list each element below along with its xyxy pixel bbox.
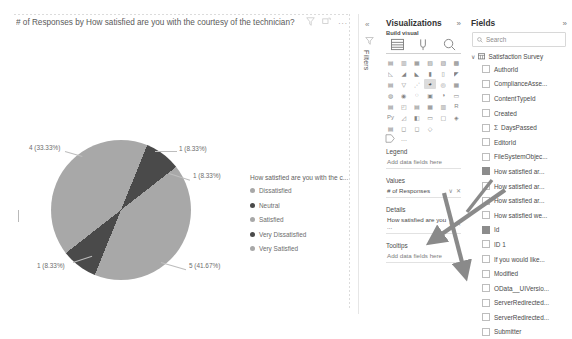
field-checkbox[interactable] bbox=[482, 167, 490, 175]
field-list-item[interactable]: Submitter bbox=[466, 325, 572, 339]
legend-item-dissatisfied[interactable]: Dissatisfied bbox=[250, 187, 362, 194]
gauge-icon[interactable]: ◑ bbox=[437, 90, 449, 100]
hundred-percent-stacked-bar-icon[interactable]: ▨ bbox=[437, 57, 449, 67]
collapse-chevron-icon[interactable]: « bbox=[365, 20, 369, 29]
field-checkbox[interactable] bbox=[482, 124, 490, 132]
funnel-chart-icon[interactable]: ▽ bbox=[398, 79, 410, 89]
field-list-item[interactable]: How satisfied ar... bbox=[466, 193, 572, 208]
fields-table-satisfaction-survey[interactable]: ∨ Satisfaction Survey bbox=[471, 53, 572, 60]
card-icon[interactable]: ▭ bbox=[450, 90, 462, 100]
well-controls[interactable]: ∨✕ bbox=[449, 187, 461, 194]
line-stacked-column-icon[interactable]: ▮ bbox=[424, 68, 436, 78]
field-checkbox[interactable] bbox=[482, 328, 490, 336]
field-list-item[interactable]: ID 1 bbox=[466, 237, 572, 252]
field-checkbox[interactable] bbox=[482, 299, 490, 307]
map-icon[interactable]: ◍ bbox=[385, 90, 397, 100]
legend-item-very-satisfied[interactable]: Very Satisfied bbox=[250, 245, 362, 252]
field-list-item[interactable]: Created bbox=[466, 106, 572, 121]
field-checkbox[interactable] bbox=[482, 313, 490, 321]
field-checkbox[interactable] bbox=[482, 80, 490, 88]
q-and-a-icon[interactable]: ▭ bbox=[424, 112, 436, 122]
field-checkbox[interactable] bbox=[482, 240, 490, 248]
line-chart-icon[interactable]: ◺ bbox=[385, 68, 397, 78]
legend-item-satisfied[interactable]: Satisfied bbox=[250, 216, 362, 223]
stacked-bar-chart-icon[interactable]: ▤ bbox=[385, 57, 397, 67]
field-list-item[interactable]: How satisfied ar... bbox=[466, 164, 572, 179]
more-visuals-icon[interactable]: ... bbox=[401, 135, 407, 142]
pie-chart-visual[interactable]: ⌐ # of Responses by How satisfied are yo… bbox=[14, 14, 350, 310]
format-visual-icon[interactable] bbox=[416, 38, 431, 51]
field-list-item[interactable]: EditorId bbox=[466, 135, 572, 150]
field-wells[interactable]: LegendAdd data fields hereValues# of Res… bbox=[381, 143, 466, 263]
field-list-item[interactable]: ComplianceAsse... bbox=[466, 77, 572, 92]
field-checkbox[interactable] bbox=[482, 153, 490, 161]
treemap-icon[interactable]: ▦ bbox=[450, 79, 462, 89]
field-list-item[interactable]: How satisfied ar... bbox=[466, 179, 572, 194]
r-script-visual-icon[interactable]: R bbox=[450, 101, 462, 111]
field-checkbox[interactable] bbox=[482, 138, 490, 146]
pie-graphic[interactable] bbox=[51, 140, 191, 280]
fields-list[interactable]: AuthorIdComplianceAsse...ContentTypeIdCr… bbox=[466, 62, 572, 339]
field-checkbox[interactable] bbox=[482, 255, 490, 263]
visual-type-gallery[interactable]: ▤▥▦▧▨▩◺◢◣▮▯◤▤▽⋰◕◎▦◍◉◌▣◑▭▤◰▤▦▥RPy◿◧▭▢◈▤◻◻… bbox=[381, 54, 466, 133]
field-checkbox[interactable] bbox=[482, 270, 490, 278]
filled-map-icon[interactable]: ◉ bbox=[398, 90, 410, 100]
table-icon[interactable]: ▦ bbox=[424, 101, 436, 111]
field-checkbox[interactable] bbox=[482, 226, 490, 234]
slicer-icon[interactable]: ▤ bbox=[411, 101, 423, 111]
ribbon-chart-icon[interactable]: ◤ bbox=[450, 68, 462, 78]
gallery-overflow-row[interactable]: ... bbox=[381, 133, 466, 143]
expand-chevron-icon[interactable]: » bbox=[563, 19, 567, 28]
well-controls[interactable]: ∨✕ bbox=[449, 220, 461, 227]
area-chart-icon[interactable]: ◢ bbox=[398, 68, 410, 78]
donut-chart-icon[interactable]: ◎ bbox=[437, 79, 449, 89]
multi-row-card-icon[interactable]: ▤ bbox=[385, 101, 397, 111]
field-list-item[interactable]: OData__UIVersio... bbox=[466, 281, 572, 296]
field-list-item[interactable]: FileSystemObjec... bbox=[466, 150, 572, 165]
legend-item-very-dissatisfied[interactable]: Very Dissatisfied bbox=[250, 231, 362, 238]
decomposition-tree-icon[interactable]: ◧ bbox=[411, 112, 423, 122]
hundred-percent-stacked-column-icon[interactable]: ▩ bbox=[450, 57, 462, 67]
field-checkbox[interactable] bbox=[482, 197, 490, 205]
matrix-icon[interactable]: ▥ bbox=[437, 101, 449, 111]
field-checkbox[interactable] bbox=[482, 65, 490, 73]
report-canvas[interactable]: ⌐ # of Responses by How satisfied are yo… bbox=[0, 0, 358, 320]
waterfall-chart-icon[interactable]: ▤ bbox=[385, 79, 397, 89]
power-apps-icon[interactable]: ◻ bbox=[398, 123, 410, 133]
field-checkbox[interactable] bbox=[482, 109, 490, 117]
field-list-item[interactable]: ContentTypeId bbox=[466, 91, 572, 106]
field-list-item[interactable]: ServerRedirected... bbox=[466, 310, 572, 325]
scatter-chart-icon[interactable]: ⋰ bbox=[411, 79, 423, 89]
power-automate-icon[interactable]: ◻ bbox=[411, 123, 423, 133]
analytics-icon[interactable] bbox=[442, 38, 457, 51]
get-more-visuals-icon[interactable]: ◇ bbox=[424, 123, 436, 133]
stacked-area-chart-icon[interactable]: ◣ bbox=[411, 68, 423, 78]
pie-chart-icon[interactable]: ◕ bbox=[424, 79, 436, 89]
well-drop-details[interactable]: How satisfied are you ...∨✕ bbox=[386, 216, 461, 234]
chevron-down-icon[interactable]: ∨ bbox=[449, 220, 453, 227]
remove-field-icon[interactable]: ✕ bbox=[456, 220, 461, 227]
field-checkbox[interactable] bbox=[482, 284, 490, 292]
stacked-column-chart-icon[interactable]: ▥ bbox=[398, 57, 410, 67]
azure-map-icon[interactable]: ▣ bbox=[424, 90, 436, 100]
field-checkbox[interactable] bbox=[482, 94, 490, 102]
field-list-item[interactable]: How satisfied we... bbox=[466, 208, 572, 223]
field-list-item[interactable]: Modified bbox=[466, 266, 572, 281]
chevron-down-icon[interactable]: ∨ bbox=[471, 53, 475, 60]
build-visual-icon[interactable] bbox=[390, 38, 405, 51]
visual-header-icons[interactable]: ... bbox=[306, 17, 348, 26]
clustered-column-chart-icon[interactable]: ▧ bbox=[424, 57, 436, 67]
remove-field-icon[interactable]: ✕ bbox=[456, 187, 461, 194]
filter-icon[interactable] bbox=[306, 17, 315, 26]
pane-mode-tabs[interactable] bbox=[381, 36, 466, 51]
focus-mode-icon[interactable] bbox=[322, 17, 331, 26]
filters-pane-collapsed[interactable]: « Filters bbox=[358, 14, 382, 314]
chevron-down-icon[interactable]: ∨ bbox=[449, 187, 453, 194]
metrics-icon[interactable]: ◈ bbox=[450, 112, 462, 122]
pie-chart-area[interactable]: 1 (8.33%) 1 (8.33%) 5 (41.67%) 1 (8.33%)… bbox=[51, 140, 233, 280]
well-drop-legend[interactable]: Add data fields here bbox=[386, 158, 461, 169]
field-checkbox[interactable] bbox=[482, 182, 490, 190]
more-options-icon[interactable]: ... bbox=[338, 19, 348, 25]
well-drop-values[interactable]: # of Responses∨✕ bbox=[386, 187, 461, 198]
expand-chevron-icon[interactable]: » bbox=[457, 19, 461, 28]
